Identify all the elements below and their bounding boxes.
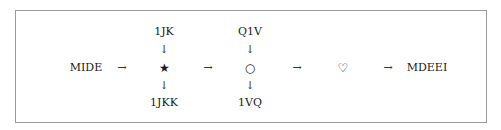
arrow-down-icon: ↓ (159, 79, 168, 93)
start-label: MIDE (70, 61, 102, 75)
star-output-label: 1JKK (150, 96, 178, 110)
arrow-right-icon: → (383, 61, 392, 75)
arrow-right-icon: → (117, 61, 126, 75)
circle-icon: ○ (245, 61, 255, 75)
heart-icon: ♡ (338, 61, 349, 75)
circle-output-label: 1VQ (238, 96, 262, 110)
arrow-down-icon: ↓ (245, 79, 254, 93)
end-label: MDEEI (407, 61, 448, 75)
arrow-right-icon: → (203, 61, 212, 75)
star-icon: ★ (159, 61, 170, 75)
arrow-down-icon: ↓ (159, 43, 168, 57)
circle-input-label: Q1V (238, 25, 262, 39)
arrow-right-icon: → (292, 61, 301, 75)
arrow-down-icon: ↓ (245, 43, 254, 57)
star-input-label: 1JK (154, 25, 174, 39)
